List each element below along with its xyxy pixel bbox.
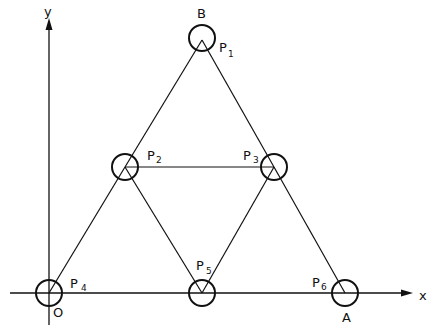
member-p3-p6 (274, 167, 345, 293)
x-axis-label: x (419, 288, 427, 303)
label-p3-sub: 3 (253, 155, 259, 165)
label-p3-base: P (243, 148, 251, 163)
y-axis-label: y (44, 4, 52, 19)
label-p1-sub: 1 (228, 49, 234, 59)
member-p2-p5 (125, 167, 202, 293)
truss-diagram: y x B P 1 P 2 P 3 P 4 O (0, 0, 429, 332)
label-p2: P 2 (147, 148, 162, 165)
label-p4-base: P (70, 276, 78, 291)
label-p5-sub: 5 (206, 266, 212, 276)
label-p6-sub: 6 (321, 282, 327, 292)
member-p1-p2 (125, 40, 202, 167)
label-p5: P 5 (196, 258, 212, 276)
label-p3: P 3 (243, 148, 259, 165)
label-A: A (342, 310, 351, 325)
label-origin-O: O (53, 305, 63, 320)
label-p6-base: P (312, 275, 320, 290)
label-p2-base: P (147, 148, 155, 163)
label-p2-sub: 2 (156, 155, 162, 165)
y-axis-arrow-icon (46, 18, 53, 30)
member-p3-p5 (202, 167, 274, 293)
label-p5-base: P (196, 258, 204, 273)
y-axis (46, 18, 53, 325)
label-p1: P 1 (219, 40, 234, 59)
label-p4-sub: 4 (81, 283, 87, 293)
label-p1-base: P (219, 40, 227, 55)
member-p2-p4 (49, 167, 125, 293)
label-p6: P 6 (312, 275, 327, 292)
joint-p1-circle-icon (189, 25, 215, 51)
x-axis-arrow-icon (401, 290, 413, 297)
truss-members (49, 40, 345, 293)
label-B: B (197, 6, 206, 21)
label-p4: P 4 (70, 276, 87, 293)
member-p1-p3 (202, 40, 274, 167)
